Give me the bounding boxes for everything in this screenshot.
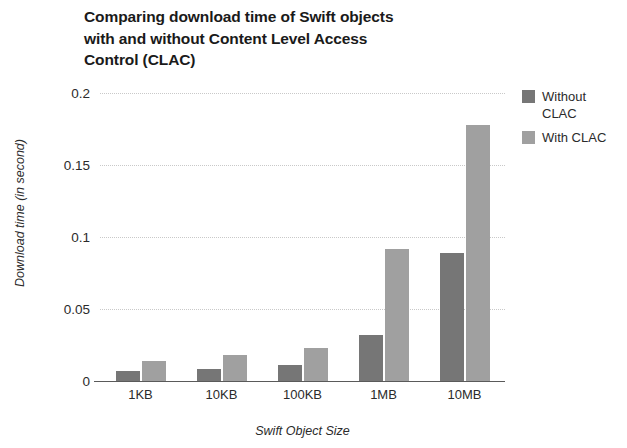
bar-group (100, 93, 181, 381)
chart-title: Comparing download time of Swift objects… (84, 6, 414, 71)
legend-item: With CLAC (522, 129, 627, 146)
x-axis-tick-label: 100KB (283, 387, 322, 402)
y-axis-tick-label: 0 (30, 374, 90, 389)
bar (142, 361, 166, 381)
legend-swatch-icon (522, 90, 535, 103)
y-axis-tick-label: 0.15 (30, 158, 90, 173)
bar (466, 125, 490, 381)
legend-label: With CLAC (542, 129, 627, 146)
bar (223, 355, 247, 381)
plot-area (100, 93, 505, 381)
chart-title-line-1: Comparing download time of Swift objects (84, 6, 414, 28)
bar-chart: Comparing download time of Swift objects… (0, 0, 627, 448)
legend-label: WithoutCLAC (542, 88, 627, 122)
y-axis-tick-labels: 00.050.10.150.2 (26, 93, 90, 381)
bar (385, 249, 409, 381)
legend-item: WithoutCLAC (522, 88, 627, 122)
bar (304, 348, 328, 381)
x-axis-tick-label: 1KB (128, 387, 153, 402)
bar (197, 369, 221, 381)
chart-title-line-2: with and without Content Level Access (84, 28, 414, 50)
chart-title-line-3: Control (CLAC) (84, 49, 414, 71)
y-axis-tick-label: 0.05 (30, 302, 90, 317)
x-axis-title: Swift Object Size (100, 424, 505, 438)
bar (440, 253, 464, 381)
bar-group (343, 93, 424, 381)
y-axis-title: Download time (in second) (13, 118, 27, 308)
legend-label-line: CLAC (542, 105, 627, 122)
legend-label-line: Without (542, 88, 627, 105)
legend-swatch-icon (522, 131, 535, 144)
y-axis-tick-label: 0.1 (30, 230, 90, 245)
x-axis-tick-label: 1MB (370, 387, 397, 402)
x-axis-tick-labels: 1KB10KB100KB1MB10MB (100, 387, 505, 407)
x-axis-tick-label: 10MB (448, 387, 482, 402)
chart-legend: WithoutCLACWith CLAC (522, 88, 627, 153)
bar (116, 371, 140, 381)
bar-group (181, 93, 262, 381)
legend-label-line: With CLAC (542, 129, 627, 146)
bar-group (424, 93, 505, 381)
y-axis-tick-label: 0.2 (30, 86, 90, 101)
bar (359, 335, 383, 381)
bar (278, 365, 302, 381)
bar-group (262, 93, 343, 381)
x-axis-tick-label: 10KB (206, 387, 238, 402)
x-axis-line (94, 381, 505, 382)
